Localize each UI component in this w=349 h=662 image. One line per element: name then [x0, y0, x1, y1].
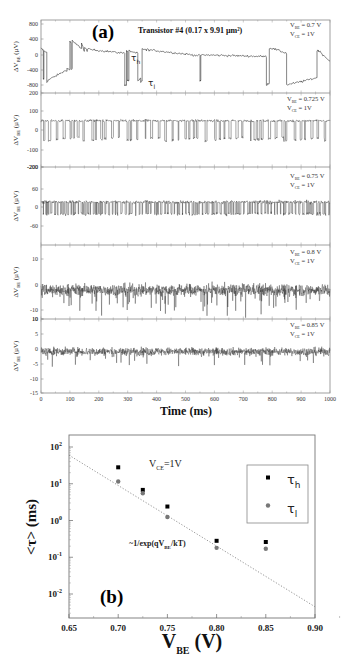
tau-l-point	[165, 515, 169, 519]
ytick-label: 0	[35, 282, 38, 288]
panel-b-letter: (b)	[100, 586, 123, 608]
ytick-label: 0	[35, 52, 38, 58]
ytick-label: 0	[35, 204, 38, 210]
panel-a-ylabels: 8004000-400-800ΔVBE (µV)2001000-100-200Δ…	[12, 21, 38, 396]
legend: τh τl	[247, 465, 308, 523]
ytick-label: 10-2	[48, 588, 62, 599]
xtick-label: 0.85	[258, 623, 274, 633]
ytick-label: 0	[35, 346, 38, 352]
tau-h-point	[215, 539, 219, 543]
tau-l-point	[141, 491, 145, 495]
vce-condition: VCE = 1V	[287, 104, 312, 113]
legend-square-marker	[266, 476, 270, 480]
trace-vbe-0.75	[41, 200, 330, 216]
panel-b: 10210110010-110-2 0.650.700.750.800.850.…	[23, 435, 340, 656]
tau-h-point	[116, 465, 120, 469]
xtick-label: 0.90	[307, 623, 323, 633]
panel-b-ytick-labels: 10210110010-110-2	[48, 441, 62, 599]
ytick-label: -60	[30, 223, 38, 229]
ytick-label: 0	[35, 127, 38, 133]
xtick-label: 0	[40, 396, 43, 402]
panel-a-xlabel: Time (ms)	[160, 404, 212, 418]
vbe-condition: VBE = 0.725 V	[287, 95, 325, 104]
tau-h-point	[165, 505, 169, 509]
ytick-label: 10	[32, 316, 38, 322]
tau-l-annotation: τl	[148, 78, 155, 90]
ytick-label: 101	[50, 478, 62, 489]
tau-l-point	[264, 547, 268, 551]
panel-a-title: Transistor #4 (0.17 x 9.91 µm²)	[138, 26, 243, 35]
ytick-label: 100	[50, 515, 62, 526]
ytick-label: -15	[30, 390, 38, 396]
xtick-label: 100	[65, 396, 74, 402]
tau-l-point	[214, 546, 218, 550]
legend-circle-marker	[266, 503, 270, 507]
fit-annotation: ~1/exp(qVBE/kT)	[129, 539, 186, 550]
xtick-label: 0.65	[61, 623, 77, 633]
xtick-label: 0.70	[110, 623, 126, 633]
xtick-label: 500	[181, 396, 190, 402]
tau-l-point	[116, 479, 120, 483]
ytick-label: -400	[27, 67, 38, 73]
panel-a-letter: (a)	[92, 21, 114, 43]
trace-vbe-0.725	[41, 119, 330, 142]
figure-canvas: (a) Transistor #4 (0.17 x 9.91 µm²) τh τ…	[0, 0, 349, 662]
vce-annotation: VCE=1V	[149, 458, 183, 471]
trace-vbe-0.85	[41, 347, 330, 367]
ytick-label: 100	[29, 108, 38, 114]
ytitle-delta-vbe: ΔVBE (µV)	[12, 266, 21, 297]
ytick-label: 800	[29, 21, 38, 27]
ytick-label: 200	[29, 90, 38, 96]
ytick-label: 60	[32, 186, 38, 192]
ytick-label: -100	[27, 147, 38, 153]
xtick-label: 900	[297, 396, 306, 402]
panel-a: (a) Transistor #4 (0.17 x 9.91 µm²) τh τ…	[12, 20, 336, 418]
ytitle-delta-vbe: ΔVBE (µV)	[12, 40, 21, 71]
ytick-label: -200	[27, 164, 38, 170]
ytick-label: 10-1	[48, 551, 62, 562]
xtick-label: 600	[210, 396, 219, 402]
xtick-label: 700	[239, 396, 248, 402]
vce-condition: VCE = 1V	[290, 257, 315, 266]
xtick-label: 300	[123, 396, 132, 402]
trace-vbe-0.7	[41, 40, 330, 86]
ytitle-delta-vbe: ΔVBE (µV)	[12, 190, 21, 221]
ytick-label: 10	[32, 256, 38, 262]
legend-box	[247, 465, 308, 523]
vce-condition: VCE = 1V	[290, 330, 315, 339]
ytitle-delta-vbe: ΔVBE (µV)	[12, 114, 21, 145]
ytick-label: 5	[35, 331, 38, 337]
panel-b-ylabel: <τ> (ms)	[23, 499, 40, 555]
trace-vbe-0.8	[41, 282, 330, 318]
vbe-condition: VBE = 0.85 V	[290, 321, 325, 330]
xtick-label: 400	[152, 396, 161, 402]
ytick-label: -800	[27, 82, 38, 88]
ytick-label: -5	[33, 361, 38, 367]
tau-h-point	[264, 540, 268, 544]
xtick-label: 1000	[324, 396, 336, 402]
tau-h-annotation: τh	[131, 53, 140, 65]
vce-condition: VCE = 1V	[290, 181, 315, 190]
vbe-condition: VBE = 0.75 V	[290, 172, 325, 181]
ytick-label: -10	[30, 376, 38, 382]
ytick-label: -10	[30, 307, 38, 313]
ytick-label: 400	[29, 36, 38, 42]
ytitle-delta-vbe: ΔVBE (µV)	[12, 340, 21, 371]
vbe-condition: VBE = 0.8 V	[290, 248, 321, 257]
vbe-condition: VBE = 0.7 V	[290, 21, 321, 30]
ytick-label: 102	[50, 441, 62, 452]
panel-a-xtick-labels: 01002003004005006007008009001000	[40, 396, 337, 402]
vce-condition: VCE = 1V	[290, 30, 315, 39]
xtick-label: 200	[94, 396, 103, 402]
panel-b-xlabel: VBE (V)	[162, 630, 223, 656]
xtick-label: 800	[268, 396, 277, 402]
